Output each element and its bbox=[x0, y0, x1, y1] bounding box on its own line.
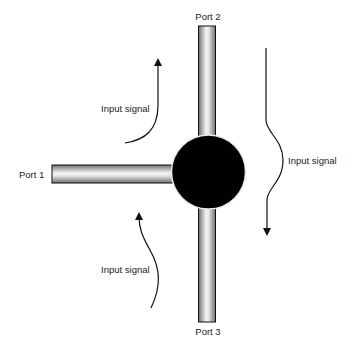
signal-label-top-left: Input signal bbox=[101, 103, 150, 114]
signal-arrow-right-icon bbox=[266, 48, 283, 232]
signal-label-bottom-left: Input signal bbox=[101, 264, 150, 275]
junction-circle bbox=[172, 135, 246, 209]
port2-label: Port 2 bbox=[195, 11, 220, 22]
port3-label: Port 3 bbox=[195, 326, 220, 337]
port2-pipe bbox=[199, 26, 216, 146]
signal-label-right: Input signal bbox=[288, 155, 337, 166]
port3-pipe bbox=[199, 200, 216, 322]
signal-arrow-bottom-left-icon bbox=[139, 216, 158, 308]
port1-label: Port 1 bbox=[19, 169, 44, 180]
three-port-junction-diagram: Port 2 Port 1 Port 3 Input signal Input … bbox=[0, 0, 347, 348]
port1-pipe bbox=[52, 165, 182, 183]
